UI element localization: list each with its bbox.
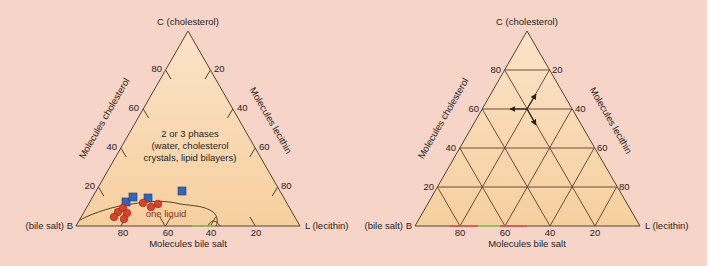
right-triangle: [415, 31, 640, 226]
bottom-tick-label: 80: [118, 227, 129, 238]
one-liquid-label: one liquid: [146, 208, 187, 219]
left-tick-label: 40: [106, 141, 117, 152]
left-vertex-label: (bile salt) B: [364, 220, 412, 231]
left-tick-label: 80: [151, 63, 162, 74]
left-tick-label: 60: [468, 103, 479, 114]
left-tick-label: 60: [128, 102, 139, 113]
region-label-line: (water, cholesterol: [151, 140, 228, 151]
red-circle-marker: [110, 213, 118, 221]
region-label-line: 2 or 3 phases: [161, 128, 219, 139]
blue-square-marker: [129, 193, 137, 201]
bottom-tick-label: 60: [163, 227, 174, 238]
red-circle-marker: [154, 200, 162, 208]
right-tick-label: 60: [597, 142, 608, 153]
left-vertex-label: (bile salt) B: [25, 220, 73, 231]
ternary-figure: C (cholesterol) (bile salt) B L (lecithi…: [0, 0, 707, 266]
blue-square-marker: [178, 187, 186, 195]
bottom-axis-label: Molecules bile salt: [488, 238, 566, 249]
bottom-tick-label: 60: [500, 227, 511, 238]
bottom-tick-label: 20: [251, 227, 262, 238]
left-tick-label: 20: [84, 180, 95, 191]
right-vertex-label: L (lecithin): [305, 220, 348, 231]
left-tick-label: 40: [445, 142, 456, 153]
bottom-tick-label: 40: [545, 227, 556, 238]
bottom-tick-label: 20: [590, 227, 601, 238]
right-ternary-diagram: C (cholesterol) (bile salt) B L (lecithi…: [364, 16, 688, 249]
region-label-line: crystals, lipid bilayers): [144, 152, 237, 163]
left-ternary-diagram: C (cholesterol) (bile salt) B L (lecithi…: [25, 16, 348, 249]
left-tick-label: 80: [490, 64, 501, 75]
bottom-tick-label: 40: [206, 227, 217, 238]
apex-label: C (cholesterol): [157, 16, 219, 27]
left-tick-label: 20: [423, 181, 434, 192]
right-tick-label: 40: [575, 103, 586, 114]
right-tick-label: 40: [237, 102, 248, 113]
bottom-tick-label: 80: [455, 227, 466, 238]
red-circle-marker: [120, 215, 128, 223]
apex-label: C (cholesterol): [496, 16, 558, 27]
right-tick-label: 20: [214, 63, 225, 74]
right-axis-label: Molecules lecithin: [588, 85, 635, 155]
right-tick-label: 60: [259, 141, 270, 152]
right-tick-label: 80: [619, 181, 630, 192]
right-vertex-label: L (lecithin): [645, 220, 688, 231]
right-tick-label: 80: [281, 180, 292, 191]
figure-panel: C (cholesterol) (bile salt) B L (lecithi…: [0, 0, 707, 266]
right-axis-label: Molecules lecithin: [248, 85, 295, 155]
right-tick-label: 20: [552, 64, 563, 75]
red-circle-marker: [139, 199, 147, 207]
bottom-axis-label: Molecules bile salt: [149, 238, 227, 249]
